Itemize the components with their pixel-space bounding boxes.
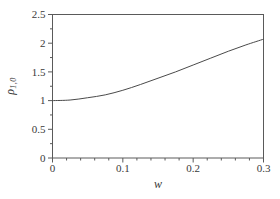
- plot-canvas: 00.10.20.300.511.522.5: [0, 0, 280, 199]
- y-axis-label-base: ρ: [3, 89, 17, 95]
- y-tick-label: 0: [40, 152, 46, 164]
- x-tick-label: 0: [50, 162, 56, 174]
- y-axis-label-subscript: 1,0: [9, 77, 18, 89]
- y-tick-label: 2: [40, 37, 46, 49]
- y-tick-label: 1: [40, 94, 46, 106]
- figure: 00.10.20.300.511.522.5 w ρ1,0: [0, 0, 280, 199]
- y-tick-label: 0.5: [32, 123, 46, 135]
- x-tick-label: 0.1: [116, 162, 130, 174]
- plot-frame: [53, 15, 264, 159]
- x-tick-label: 0.2: [186, 162, 200, 174]
- x-axis-label: w: [154, 178, 162, 190]
- y-tick-label: 1.5: [32, 66, 46, 78]
- y-axis-label: ρ1,0: [4, 77, 18, 94]
- x-tick-label: 0.3: [257, 162, 271, 174]
- y-tick-label: 2.5: [32, 8, 46, 20]
- data-curve: [53, 39, 264, 100]
